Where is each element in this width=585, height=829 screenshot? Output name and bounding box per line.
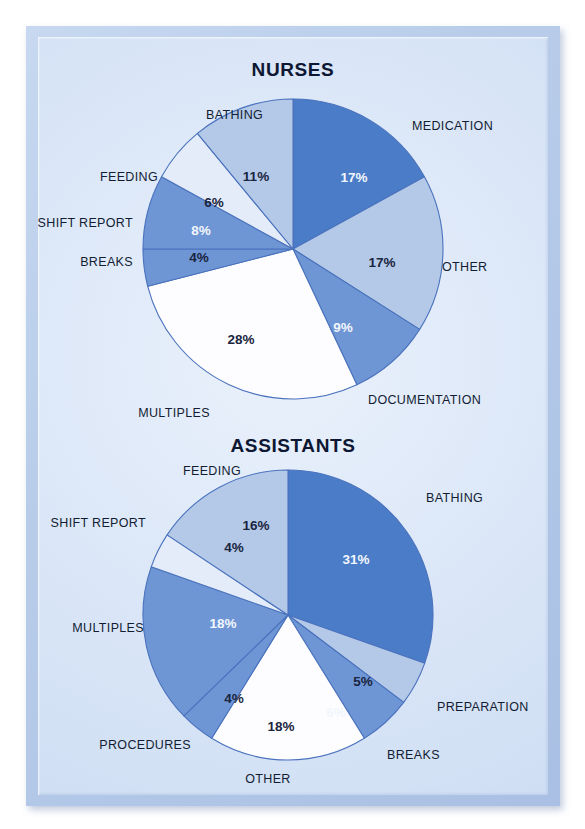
assistants-label-bathing: BATHING xyxy=(426,491,483,505)
assistants-value-breaks: 6% xyxy=(326,705,346,720)
poster-frame: NURSES 17% 17% 9% 28% 4% 8% xyxy=(26,26,560,806)
assistants-label-multiples: MULTIPLES xyxy=(72,621,144,635)
nurses-label-medication: MEDICATION xyxy=(412,119,493,133)
nurses-value-feeding: 6% xyxy=(204,195,224,210)
assistants-value-preparation: 5% xyxy=(353,674,373,689)
assistants-value-procedures: 4% xyxy=(224,691,244,706)
nurses-value-medication: 17% xyxy=(340,170,367,185)
assistants-label-breaks: BREAKS xyxy=(387,748,440,762)
nurses-value-other: 17% xyxy=(368,255,395,270)
nurses-label-shift-report: SHIFT REPORT xyxy=(38,216,133,230)
nurses-label-other: OTHER xyxy=(442,260,488,274)
assistants-label-feeding: FEEDING xyxy=(183,464,241,478)
assistants-label-other: OTHER xyxy=(245,772,291,786)
assistants-value-shift-report: 4% xyxy=(224,540,244,555)
assistants-value-other: 18% xyxy=(267,719,294,734)
chart-assistants-pie-area: 31% 5% 6% 18% 4% 18% 4% 16% BATHING PREP… xyxy=(38,435,548,793)
page-root: NURSES 17% 17% 9% 28% 4% 8% xyxy=(0,0,585,829)
assistants-value-bathing: 31% xyxy=(342,552,369,567)
chart-assistants: ASSISTANTS 31% 5% 6% 18% 4% 18% 4% 16% xyxy=(38,435,548,793)
assistants-value-feeding: 16% xyxy=(242,518,269,533)
assistants-value-multiples: 18% xyxy=(209,616,236,631)
chart-nurses: NURSES 17% 17% 9% 28% 4% 8% xyxy=(38,59,548,429)
nurses-label-multiples: MULTIPLES xyxy=(138,406,210,420)
nurses-value-bathing: 11% xyxy=(243,169,269,184)
assistants-label-shift-report: SHIFT REPORT xyxy=(51,516,146,530)
nurses-value-multiples: 28% xyxy=(227,332,254,347)
poster-panel: NURSES 17% 17% 9% 28% 4% 8% xyxy=(38,37,548,795)
nurses-value-documentation: 9% xyxy=(333,320,353,335)
nurses-value-shift-report: 8% xyxy=(191,223,211,238)
assistants-label-procedures: PROCEDURES xyxy=(99,738,191,752)
nurses-slice-set xyxy=(143,99,443,399)
nurses-label-feeding: FEEDING xyxy=(100,170,158,184)
nurses-label-bathing: BATHING xyxy=(206,108,263,122)
chart-nurses-pie-area: 17% 17% 9% 28% 4% 8% 6% 11% MEDICATION O… xyxy=(38,59,548,429)
nurses-label-documentation: DOCUMENTATION xyxy=(368,393,481,407)
assistants-slice-set xyxy=(143,470,433,760)
nurses-value-breaks: 4% xyxy=(189,250,209,265)
assistants-pie-svg: 31% 5% 6% 18% 4% 18% 4% 16% BATHING PREP… xyxy=(38,435,548,793)
nurses-pie-svg: 17% 17% 9% 28% 4% 8% 6% 11% MEDICATION O… xyxy=(38,59,548,429)
nurses-label-breaks: BREAKS xyxy=(80,255,133,269)
assistants-label-preparation: PREPARATION xyxy=(437,700,529,714)
